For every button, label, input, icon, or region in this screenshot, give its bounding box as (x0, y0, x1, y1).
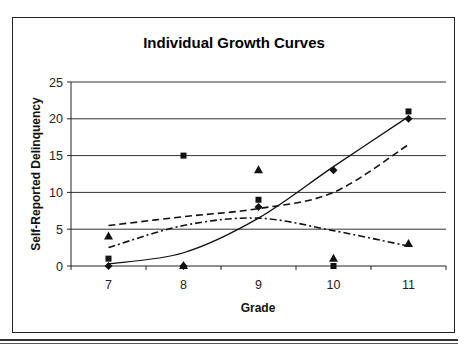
diamond-marker (330, 166, 338, 174)
triangle-marker (404, 239, 413, 247)
triangle-marker (329, 254, 338, 262)
data-points (104, 108, 413, 270)
square-marker (331, 263, 337, 269)
y-tick-labels: 0510152025 (49, 76, 63, 274)
fitted-curves (109, 117, 409, 264)
triangle-marker (254, 165, 263, 173)
y-tick-label: 5 (56, 223, 63, 237)
fitted-curve-dash-dot (109, 218, 409, 248)
x-tick-label: 9 (255, 278, 262, 292)
triangle-marker (104, 232, 113, 240)
y-tick-label: 15 (49, 149, 63, 163)
x-tick-label: 7 (105, 278, 112, 292)
diamond-marker (405, 115, 413, 123)
y-tick-label: 25 (49, 76, 63, 90)
x-tick-label: 10 (327, 278, 341, 292)
square-marker (256, 197, 262, 203)
x-tick-label: 11 (402, 278, 415, 292)
fitted-curve-dashed (109, 145, 409, 226)
square-marker (181, 153, 187, 159)
x-tick-label: 8 (180, 278, 187, 292)
triangle-marker (179, 261, 188, 269)
square-marker (406, 108, 412, 114)
x-axis-label: Grade (241, 301, 276, 315)
square-marker (106, 256, 112, 262)
chart-title: Individual Growth Curves (143, 34, 325, 51)
y-axis-label: Self-Reported Delinquency (29, 97, 43, 251)
fitted-curve-solid (109, 117, 409, 264)
chart: Individual Growth Curves 0510152025 7891… (0, 0, 464, 346)
y-tick-label: 10 (49, 186, 63, 200)
x-tick-labels: 7891011 (105, 278, 415, 292)
y-tick-label: 20 (49, 112, 63, 126)
y-tick-label: 0 (56, 260, 63, 274)
diamond-marker (255, 203, 263, 211)
